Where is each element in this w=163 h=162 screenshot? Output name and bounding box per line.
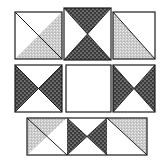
top-row [15,8,155,60]
block-bottom-strip [27,118,147,155]
quilt-block-layout-diagram [0,0,163,162]
middle-row [15,65,155,112]
block-bowtie-middle-right [113,65,155,112]
quilt-diagram-svg [0,0,163,162]
block-plain-center [66,65,111,112]
block-hourglass-top-center [64,8,111,60]
block-half-square-triangle-right [113,12,155,59]
bottom-row [27,118,147,155]
solid-fill [66,65,111,112]
block-half-square-triangle-left [15,12,62,59]
block-bowtie-middle-left [15,65,62,112]
bottom-unit-center [67,118,107,155]
